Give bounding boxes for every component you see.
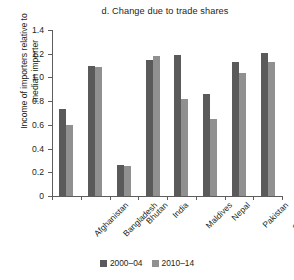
y-tick-label: 0.8	[4, 96, 44, 106]
bar	[95, 67, 102, 196]
bar	[153, 56, 160, 196]
bar	[124, 166, 131, 196]
bar	[261, 53, 268, 196]
x-tick-mark	[196, 196, 197, 200]
bar	[181, 99, 188, 196]
bar	[66, 125, 73, 196]
x-tick-mark	[253, 196, 254, 200]
x-tick-mark	[225, 196, 226, 200]
y-tick-label: 1.2	[4, 49, 44, 59]
bar-group	[110, 30, 139, 196]
chart-figure: d. Change due to trade shares Income of …	[0, 0, 294, 280]
bar	[88, 66, 95, 196]
legend-label: 2000–04	[110, 258, 143, 268]
bar	[146, 60, 153, 196]
y-tick-label: 1.4	[4, 25, 44, 35]
chart-title: d. Change due to trade shares	[40, 6, 290, 16]
x-tick-mark	[138, 196, 139, 200]
x-tick-mark	[167, 196, 168, 200]
chart-legend: 2000–042010–14	[0, 258, 294, 268]
bar-group	[225, 30, 254, 196]
y-tick-label: 0.6	[4, 120, 44, 130]
bar	[59, 109, 66, 196]
y-tick-label: 0.4	[4, 144, 44, 154]
bar	[239, 73, 246, 196]
bar	[117, 165, 124, 196]
legend-swatch	[152, 260, 159, 267]
bar	[210, 119, 217, 196]
legend-label: 2010–14	[162, 258, 195, 268]
x-tick-mark	[52, 196, 53, 200]
legend-swatch	[100, 260, 107, 267]
bar-group	[167, 30, 196, 196]
y-tick-label: 0	[4, 191, 44, 201]
bar	[268, 62, 275, 196]
bar-group	[138, 30, 167, 196]
x-axis-label: Pakistan	[261, 200, 291, 230]
bar-group	[52, 30, 81, 196]
bar-group	[253, 30, 282, 196]
plot-area	[52, 30, 282, 196]
x-axis-label: Sri Lanka	[290, 200, 294, 232]
y-tick-label: 1.0	[4, 72, 44, 82]
bar-group	[196, 30, 225, 196]
bar	[203, 94, 210, 196]
bar	[174, 55, 181, 196]
x-axis-label: India	[170, 200, 190, 220]
y-tick-label: 0.2	[4, 167, 44, 177]
legend-item[interactable]: 2000–04	[100, 258, 143, 268]
bar-group	[81, 30, 110, 196]
x-axis-label: Nepal	[229, 200, 252, 223]
bar	[232, 62, 239, 196]
x-tick-mark	[81, 196, 82, 200]
legend-item[interactable]: 2010–14	[152, 258, 195, 268]
x-tick-mark	[110, 196, 111, 200]
